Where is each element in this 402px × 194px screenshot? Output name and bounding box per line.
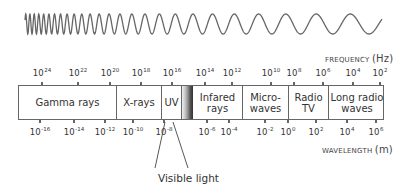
visible-light-label: Visible light [158,172,219,184]
visible-light-pointer-lines [0,0,402,194]
